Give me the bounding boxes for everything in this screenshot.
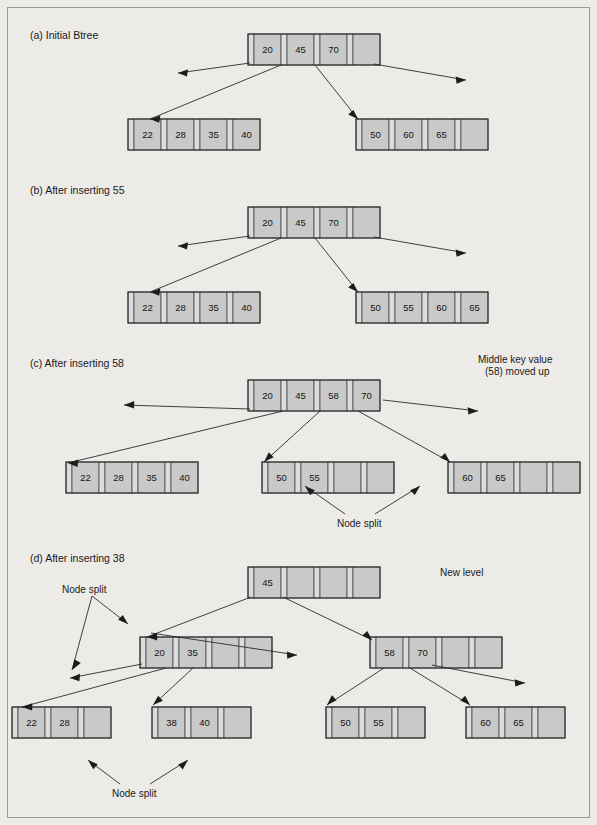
node-pointer-cell xyxy=(66,462,72,493)
node-pointer-cell xyxy=(422,292,428,323)
node-pointer-cell xyxy=(262,462,268,493)
btree-insertion-figure: (a) Initial Btree 204570 22283540 506065… xyxy=(0,0,597,825)
node-pointer-cell xyxy=(514,462,520,493)
node-pointer-cell xyxy=(547,462,553,493)
node-pointer-cell xyxy=(455,119,461,150)
node-empty-cell xyxy=(398,707,425,738)
node-pointer-cell xyxy=(347,380,353,411)
node-key-value: 40 xyxy=(199,717,210,728)
node-pointer-cell xyxy=(359,707,365,738)
node-key-value: 60 xyxy=(480,717,491,728)
panel-a-label: (a) Initial Btree xyxy=(30,29,98,41)
node-empty-cell xyxy=(287,567,314,598)
node-key-value: 55 xyxy=(403,302,414,313)
node-key-value: 45 xyxy=(295,217,306,228)
node-empty-cell xyxy=(84,707,111,738)
node-pointer-cell xyxy=(347,567,353,598)
node-pointer-cell xyxy=(140,637,146,668)
panel-c-root-node: 20455870 xyxy=(248,380,380,411)
node-key-value: 55 xyxy=(309,472,320,483)
node-key-value: 65 xyxy=(513,717,524,728)
node-key-value: 38 xyxy=(166,717,177,728)
node-split-note-c: Node split xyxy=(337,518,382,529)
node-empty-cell xyxy=(353,207,380,238)
node-key-value: 60 xyxy=(403,129,414,140)
node-key-value: 40 xyxy=(179,472,190,483)
node-empty-cell xyxy=(212,637,239,668)
node-pointer-cell xyxy=(161,119,167,150)
panel-c-leaf-1: 22283540 xyxy=(66,462,198,493)
panel-b-edges xyxy=(150,236,466,296)
node-empty-cell xyxy=(442,637,469,668)
node-pointer-cell xyxy=(328,462,334,493)
new-level-note: New level xyxy=(440,567,483,578)
node-key-value: 35 xyxy=(208,302,219,313)
node-key-value: 50 xyxy=(340,717,351,728)
node-pointer-cell xyxy=(248,34,254,65)
node-pointer-cell xyxy=(314,567,320,598)
node-pointer-cell xyxy=(194,292,200,323)
node-pointer-cell xyxy=(392,707,398,738)
node-key-value: 22 xyxy=(80,472,91,483)
panel-d-label: (d) After inserting 38 xyxy=(30,552,125,564)
node-key-value: 70 xyxy=(328,44,339,55)
node-key-value: 65 xyxy=(436,129,447,140)
node-pointer-cell xyxy=(481,462,487,493)
node-key-value: 50 xyxy=(370,302,381,313)
node-pointer-cell xyxy=(295,462,301,493)
panel-d-internal-2: 5870 xyxy=(370,637,502,668)
panel-c-label: (c) After inserting 58 xyxy=(30,357,124,369)
node-empty-cell xyxy=(245,637,272,668)
panel-d-leaf-1: 2228 xyxy=(12,707,111,738)
panel-d-leaf-4: 6065 xyxy=(466,707,565,738)
node-key-value: 70 xyxy=(361,390,372,401)
node-key-value: 58 xyxy=(328,390,339,401)
panel-c-edges xyxy=(68,400,478,514)
node-pointer-cell xyxy=(227,119,233,150)
panel-d-leaf-2: 3840 xyxy=(152,707,251,738)
node-key-value: 65 xyxy=(495,472,506,483)
node-pointer-cell xyxy=(314,380,320,411)
node-pointer-cell xyxy=(356,292,362,323)
node-pointer-cell xyxy=(128,119,134,150)
panel-d-leaf-3: 5055 xyxy=(326,707,425,738)
node-pointer-cell xyxy=(361,462,367,493)
node-pointer-cell xyxy=(194,119,200,150)
node-key-value: 45 xyxy=(295,390,306,401)
node-empty-cell xyxy=(353,567,380,598)
node-key-value: 28 xyxy=(59,717,70,728)
node-key-value: 22 xyxy=(26,717,37,728)
node-key-value: 22 xyxy=(142,129,153,140)
node-pointer-cell xyxy=(314,207,320,238)
node-pointer-cell xyxy=(248,380,254,411)
node-pointer-cell xyxy=(185,707,191,738)
node-empty-cell xyxy=(475,637,502,668)
node-pointer-cell xyxy=(499,707,505,738)
node-pointer-cell xyxy=(132,462,138,493)
middle-key-note-line2: (58) moved up xyxy=(485,366,550,377)
node-pointer-cell xyxy=(389,119,395,150)
node-empty-cell xyxy=(320,567,347,598)
node-key-value: 35 xyxy=(146,472,157,483)
node-pointer-cell xyxy=(165,462,171,493)
node-pointer-cell xyxy=(45,707,51,738)
node-empty-cell xyxy=(353,34,380,65)
panel-b-label: (b) After inserting 55 xyxy=(30,184,125,196)
node-pointer-cell xyxy=(161,292,167,323)
node-empty-cell xyxy=(538,707,565,738)
node-pointer-cell xyxy=(403,637,409,668)
node-pointer-cell xyxy=(281,380,287,411)
node-empty-cell xyxy=(224,707,251,738)
node-key-value: 45 xyxy=(295,44,306,55)
node-key-value: 35 xyxy=(187,647,198,658)
node-pointer-cell xyxy=(422,119,428,150)
panel-a-edges xyxy=(150,63,466,123)
panel-c-leaf-3: 6065 xyxy=(448,462,580,493)
node-pointer-cell xyxy=(532,707,538,738)
node-pointer-cell xyxy=(281,567,287,598)
node-pointer-cell xyxy=(389,292,395,323)
node-key-value: 28 xyxy=(113,472,124,483)
panel-c-leaf-2: 5055 xyxy=(262,462,394,493)
node-pointer-cell xyxy=(173,637,179,668)
middle-key-note-line1: Middle key value xyxy=(478,354,553,365)
